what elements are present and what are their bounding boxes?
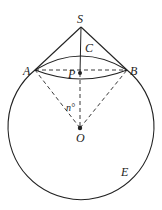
label-c: C <box>85 41 94 55</box>
point-p <box>78 71 82 75</box>
label-p: P <box>67 67 76 81</box>
cap-arc-top <box>35 56 127 70</box>
axis-sp <box>80 27 81 73</box>
diagram-canvas: S C A B P O n° E <box>0 0 162 210</box>
cone-side-sa <box>35 27 81 70</box>
label-b: B <box>130 64 138 78</box>
point-o <box>78 126 82 130</box>
label-angle: n° <box>66 102 75 113</box>
label-s: S <box>77 12 83 26</box>
label-e: E <box>120 165 129 179</box>
label-o: O <box>76 131 85 145</box>
label-a: A <box>22 64 31 78</box>
geometry-diagram: S C A B P O n° E <box>0 0 162 210</box>
